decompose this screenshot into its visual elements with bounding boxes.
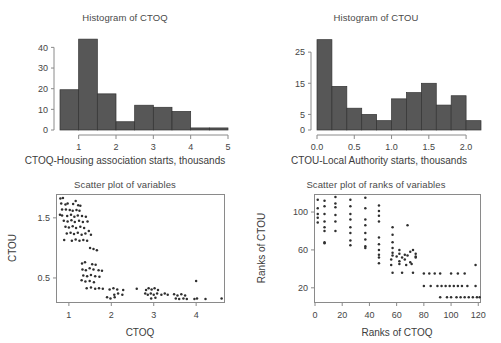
x-axis-label: CTOQ-Housing association starts, thousan… [25,155,225,166]
data-point [83,227,86,230]
data-point [378,243,381,246]
data-point [68,226,71,229]
data-point [404,253,407,256]
data-point [88,280,91,283]
data-point [195,280,198,283]
y-axis-tick-label: 15 [295,79,305,89]
data-point [364,238,367,241]
data-point [82,239,85,242]
data-point [78,220,81,223]
data-point [364,247,367,250]
data-point [472,296,475,299]
data-point [406,254,409,257]
data-point [463,296,466,299]
hist-ctou-plot: 0515250.00.51.01.52.0 CTOU-Local Authori… [251,8,501,175]
data-point [90,233,93,236]
data-point [457,272,460,275]
data-point [175,297,178,300]
data-point [109,297,112,300]
data-point [85,287,88,290]
x-axis-tick-label: 0.0 [311,142,324,152]
data-point [74,200,77,203]
data-point [180,293,183,296]
data-point [166,294,169,297]
y-axis-tick-label: 30 [38,63,48,73]
hist-ctoq-bars [60,39,228,130]
histogram-bar [377,121,392,130]
data-point [474,264,477,267]
data-point [378,236,381,239]
histogram-bar [79,39,98,130]
hist-ctou-bars [317,40,481,130]
data-point [453,285,456,288]
data-point [81,268,84,271]
histogram-bar [362,114,377,130]
data-point [61,208,64,211]
x-axis-tick-label: 2 [109,310,114,320]
data-point [94,288,97,291]
data-point [71,209,74,212]
data-point [423,272,426,275]
x-axis-tick-label: 1.0 [385,142,398,152]
data-point [75,209,78,212]
data-point [101,269,104,272]
data-point [316,216,319,219]
data-point [414,252,417,255]
data-point [334,202,337,205]
data-point [69,232,72,235]
data-point [378,256,381,259]
data-point [186,298,189,301]
panel-scatter-ranks: Scatter plot of ranks of variables 20601… [251,176,501,343]
data-point [440,285,443,288]
data-point [323,230,326,233]
data-point [429,285,432,288]
y-axis-tick-label: 100 [293,207,308,217]
data-point [108,288,111,291]
data-point [164,292,167,295]
data-point [323,205,326,208]
data-point [349,218,352,221]
panel-scatter-vars: Scatter plot of variables 0.51.51234 CTO… [0,176,250,343]
scatter-ranks-points [316,196,480,299]
histogram-bar [392,99,407,130]
y-axis-tick-label: 20 [298,283,308,293]
histogram-bar [406,93,421,130]
data-point [446,296,449,299]
data-point [59,197,62,200]
histogram-bar [97,94,116,130]
data-point [64,226,67,229]
x-axis-tick-label: 100 [444,310,459,320]
data-point [323,242,326,245]
data-point [113,296,116,299]
data-point [391,271,394,274]
data-point [59,214,62,217]
data-point [474,285,477,288]
data-point [91,263,94,266]
data-point [72,203,75,206]
data-point [391,226,394,229]
data-point [364,207,367,210]
plot-frame [57,195,225,303]
data-point [323,213,326,216]
data-point [156,292,159,295]
data-point [147,294,150,297]
y-axis-tick-label: 25 [295,47,305,57]
data-point [113,294,116,297]
data-point [398,263,401,266]
data-point [66,215,69,218]
data-point [112,287,115,290]
data-point [85,269,88,272]
x-axis-tick-label: 120 [471,310,486,320]
data-point [84,280,87,283]
data-point [349,198,352,201]
histogram-bar [60,90,79,130]
data-point [450,296,453,299]
data-point [73,215,76,218]
data-point [378,220,381,223]
scatter-ranks-plot: 2060100020406080100120 Ranks of CTOQ Ran… [251,176,501,343]
data-point [459,296,462,299]
data-point [90,274,93,277]
data-point [82,274,85,277]
data-point [398,249,401,252]
data-point [323,220,326,223]
